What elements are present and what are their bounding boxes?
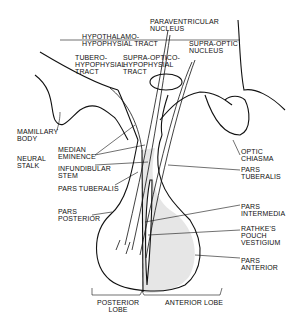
label-infundibular-stem: INFUNDIBULAR STEM	[58, 165, 111, 179]
label-pars-tuberalis-right: PARS TUBERALIS	[241, 166, 281, 180]
label-hypothalamo-hypophysial-tract: HYPOTHALAMO- HYPOPHYSIAL TRACT	[82, 33, 158, 47]
label-median-eminence: MEDIAN EMINENCE	[58, 146, 96, 160]
stalk-left	[118, 90, 138, 140]
third-ventricle-right	[160, 92, 232, 120]
label-neural-stalk: NEURAL STALK	[17, 155, 46, 169]
label-anterior-lobe: ANTERIOR LOBE	[165, 299, 223, 306]
label-pars-intermedia: PARS INTERMEDIA	[241, 203, 285, 217]
label-paraventricular-nucleus: PARAVENTRICULAR NUCLEUS	[150, 18, 219, 32]
label-tuberohypophysial-tract: TUBERO- HYPOPHYSIAL TRACT	[75, 54, 126, 75]
label-supraoptic-nucleus: SUPRA-OPTIC NUCLEUS	[189, 40, 238, 54]
label-posterior-lobe: POSTERIOR LOBE	[97, 299, 139, 313]
right-wall	[238, 20, 285, 110]
label-rathkes-pouch-vestigium: RATHKE'S POUCH VESTIGIUM	[241, 225, 280, 246]
label-pars-anterior: PARS ANTERIOR	[241, 257, 278, 271]
label-supraopticohypophysial-tract: SUPRA-OPTICO- HYPOPHYSIAL TRACT	[123, 54, 180, 75]
label-pars-posterior: PARS POSTERIOR	[58, 208, 100, 222]
label-optic-chiasma: OPTIC CHIASMA	[241, 148, 274, 162]
tract-ellipse	[150, 74, 182, 90]
label-pars-tuberalis-left: PARS TUBERALIS	[58, 185, 119, 192]
label-mamillary-body: MAMILLARY BODY	[17, 128, 58, 142]
